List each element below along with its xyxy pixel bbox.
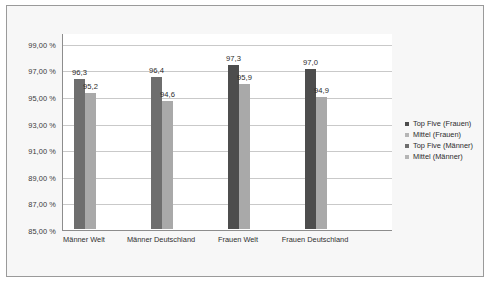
legend-swatch-icon [405, 122, 409, 126]
x-axis-category-label: Frauen Welt [218, 235, 258, 244]
y-axis-tick-label: 99,00 % [28, 40, 56, 49]
plot-area: 96,395,296,494,697,395,997,094,9 99,00 %… [62, 34, 392, 231]
legend-label: Top Five (Männer) [413, 141, 473, 150]
bar[interactable]: 96,3 [74, 79, 85, 229]
bar-value-label: 96,3 [72, 68, 87, 77]
y-axis-tick-label: 87,00 % [28, 200, 56, 209]
chart-figure: 96,395,296,494,697,395,997,094,9 99,00 %… [6, 5, 484, 277]
y-axis-tick-label: 91,00 % [28, 147, 56, 156]
legend-item[interactable]: Top Five (Männer) [405, 140, 473, 151]
legend-swatch-icon [405, 155, 409, 159]
legend-item[interactable]: Mittel (Frauen) [405, 129, 473, 140]
bar-value-label: 97,0 [303, 58, 318, 67]
legend-label: Top Five (Frauen) [413, 119, 471, 128]
bar-group: 96,494,6 [151, 33, 173, 229]
bar[interactable]: 96,4 [151, 77, 162, 229]
bar[interactable]: 97,3 [228, 65, 239, 229]
y-axis-tick-label: 95,00 % [28, 93, 56, 102]
bar-value-label: 94,9 [314, 86, 329, 95]
bar-group: 97,395,9 [228, 33, 250, 229]
legend-item[interactable]: Top Five (Frauen) [405, 118, 473, 129]
legend-label: Mittel (Frauen) [413, 130, 461, 139]
bar[interactable]: 95,9 [239, 84, 250, 229]
bar-value-label: 97,3 [226, 54, 241, 63]
legend-swatch-icon [405, 133, 409, 137]
chart-legend: Top Five (Frauen)Mittel (Frauen)Top Five… [405, 118, 473, 162]
legend-swatch-icon [405, 144, 409, 148]
legend-label: Mittel (Männer) [413, 152, 463, 161]
y-axis-tick-label: 85,00 % [28, 227, 56, 236]
bar-group: 96,395,2 [74, 33, 96, 229]
legend-item[interactable]: Mittel (Männer) [405, 151, 473, 162]
x-axis-category-label: Männer Welt [63, 235, 105, 244]
y-axis-tick-label: 89,00 % [28, 173, 56, 182]
bar-value-label: 95,2 [83, 82, 98, 91]
x-axis-category-label: Frauen Deutschland [282, 235, 349, 244]
bar-value-label: 96,4 [149, 66, 164, 75]
plot-inner: 96,395,296,494,697,395,997,094,9 [62, 34, 392, 231]
bar-value-label: 94,6 [160, 90, 175, 99]
x-axis-category-label: Männer Deutschland [127, 235, 195, 244]
bar[interactable]: 94,6 [162, 101, 173, 229]
y-axis-tick-label: 93,00 % [28, 120, 56, 129]
bar[interactable]: 94,9 [316, 97, 327, 229]
y-axis-tick-label: 97,00 % [28, 67, 56, 76]
bar[interactable]: 95,2 [85, 93, 96, 229]
bar-group: 97,094,9 [305, 33, 327, 229]
bar-value-label: 95,9 [237, 73, 252, 82]
